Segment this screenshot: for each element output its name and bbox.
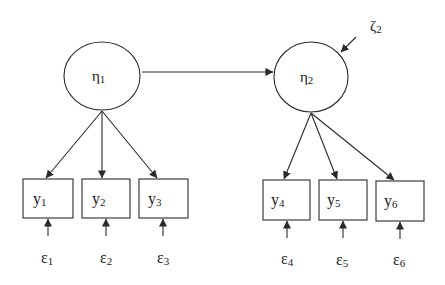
y2-box xyxy=(82,179,130,218)
y2-label: y2 xyxy=(92,190,106,208)
sem-diagram: η1 η2 ζ2 y1 y2 xyxy=(0,0,445,285)
path-eta1-to-y1 xyxy=(46,111,102,178)
diagram-svg: η1 η2 ζ2 y1 y2 xyxy=(0,0,445,285)
zeta2-label: ζ2 xyxy=(370,18,382,35)
eta1-label: η1 xyxy=(92,68,105,85)
y6-label: y6 xyxy=(384,192,398,210)
y1-box xyxy=(23,179,73,218)
e4-label: ε4 xyxy=(281,250,294,268)
latent-eta2: η2 xyxy=(274,42,348,112)
observed-y1: y1 xyxy=(23,179,73,218)
path-eta2-to-y6 xyxy=(311,113,394,180)
eta2-label: η2 xyxy=(300,69,313,86)
e1-label: ε1 xyxy=(41,249,53,267)
e2-label: ε2 xyxy=(100,249,112,267)
observed-y2: y2 xyxy=(82,179,130,218)
observed-y3: y3 xyxy=(139,179,188,218)
y3-box xyxy=(139,179,188,218)
e6-label: ε6 xyxy=(393,251,406,269)
path-eta1-to-y3 xyxy=(102,111,157,178)
observed-y4: y4 xyxy=(263,180,310,220)
y1-label: y1 xyxy=(33,190,47,208)
observed-y6: y6 xyxy=(376,181,424,221)
latent-eta1: η1 xyxy=(64,42,140,110)
y3-label: y3 xyxy=(148,190,162,208)
path-zeta2-to-eta2 xyxy=(341,37,356,52)
e3-label: ε3 xyxy=(157,249,170,267)
y4-label: y4 xyxy=(271,191,285,209)
path-eta2-to-y4 xyxy=(284,113,311,179)
y5-label: y5 xyxy=(327,191,341,209)
e5-label: ε5 xyxy=(336,251,349,269)
observed-y5: y5 xyxy=(319,180,367,220)
disturbance-zeta2: ζ2 xyxy=(341,18,382,52)
